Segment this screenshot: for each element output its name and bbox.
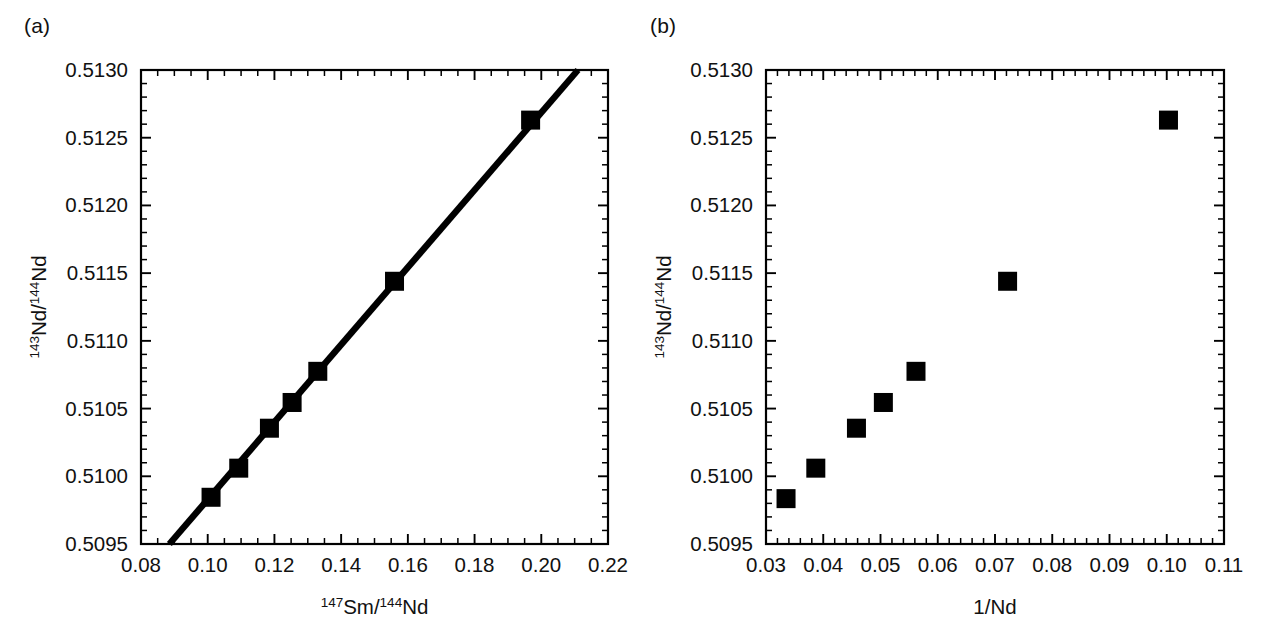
data-point-marker [521,111,540,130]
panel-b-plot: 0.030.040.050.060.070.080.090.100.110.50… [632,0,1265,644]
data-point-marker [1159,111,1178,130]
y-axis-title-sup-1: 143 [27,336,42,359]
y-axis-title-sup-2: 144 [27,281,42,304]
y-tick-label: 0.5105 [65,397,128,420]
x-axis-title: 1/Nd [973,595,1016,618]
x-tick-label: 0.10 [188,553,228,576]
y-tick-label: 0.5125 [65,126,128,149]
x-tick-label: 0.05 [861,553,901,576]
x-tick-label: 0.22 [588,553,628,576]
y-tick-label: 0.5115 [67,261,128,284]
y-tick-label: 0.5125 [690,126,753,149]
data-point-marker [260,419,279,438]
x-tick-label: 0.08 [1032,553,1072,576]
x-axis-title-mid: Sm/ [343,595,380,618]
x-tick-label: 0.04 [803,553,843,576]
panel-a: (a) 0.080.100.120.140.160.180.200.220.50… [0,0,632,644]
y-tick-label: 0.5110 [67,329,128,352]
x-axis-title-sup-2: 144 [380,595,403,610]
y-axis-title-tail: Nd [652,255,675,281]
data-point-marker [998,272,1017,291]
data-point-marker [385,272,404,291]
y-axis-title-mid: Nd/ [652,304,675,336]
y-tick-label: 0.5120 [690,193,753,216]
data-point-marker [906,362,925,381]
x-tick-label: 0.10 [1147,553,1187,576]
x-tick-label: 0.07 [975,553,1015,576]
panel-a-plot: 0.080.100.120.140.160.180.200.220.50950.… [0,0,633,644]
y-tick-label: 0.5120 [65,193,128,216]
y-tick-label: 0.5095 [65,532,128,555]
data-point-marker [777,489,796,508]
x-tick-label: 0.09 [1090,553,1130,576]
data-point-marker [202,488,221,507]
y-axis-title: 143Nd/144Nd [652,255,676,358]
x-tick-label: 0.20 [521,553,561,576]
y-axis-title-sup-2: 144 [652,281,667,304]
data-point-marker [308,362,327,381]
x-tick-label: 0.16 [388,553,428,576]
x-tick-label: 0.12 [254,553,294,576]
x-axis-title: 147Sm/144Nd [321,595,429,619]
y-axis-title-mid: Nd/ [27,304,50,336]
x-axis-title-tail: Nd [402,595,428,618]
y-tick-label: 0.5110 [692,329,753,352]
x-tick-label: 0.03 [746,553,786,576]
y-tick-label: 0.5105 [690,397,753,420]
y-tick-label: 0.5100 [690,464,753,487]
y-tick-label: 0.5130 [690,58,753,81]
data-point-marker [229,459,248,478]
plot-frame [766,70,1224,544]
x-tick-label: 0.18 [455,553,495,576]
y-tick-label: 0.5130 [65,58,128,81]
y-tick-label: 0.5115 [692,261,753,284]
x-tick-label: 0.14 [321,553,361,576]
x-axis-title-sup-1: 147 [321,595,344,610]
y-tick-label: 0.5095 [690,532,753,555]
y-axis-title-sup-1: 143 [652,336,667,359]
data-point-marker [847,419,866,438]
y-tick-label: 0.5100 [65,464,128,487]
panel-b: (b) 0.030.040.050.060.070.080.090.100.11… [632,0,1265,644]
y-axis-title-tail: Nd [27,255,50,281]
x-tick-label: 0.06 [918,553,958,576]
data-point-marker [283,393,302,412]
x-tick-label: 0.08 [121,553,161,576]
data-point-marker [874,393,893,412]
figure-sm-nd-isochron: (a) 0.080.100.120.140.160.180.200.220.50… [0,0,1265,644]
data-point-marker [806,459,825,478]
x-tick-label: 0.11 [1205,553,1243,576]
y-axis-title: 143Nd/144Nd [27,255,51,358]
